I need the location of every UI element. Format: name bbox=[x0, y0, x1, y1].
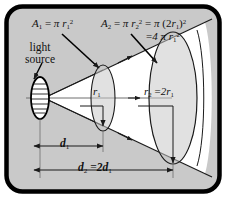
diagram-svg bbox=[0, 0, 226, 198]
area1-label: A1 = π r12 bbox=[32, 18, 73, 30]
area2-label-line2: =4 π r12 bbox=[146, 31, 180, 43]
figure-container: A1 = π r12 A2 = π r22 = π (2r1)2 =4 π r1… bbox=[0, 0, 226, 198]
radius2-label: r2 =2r1 bbox=[144, 86, 174, 98]
distance1-label: d1 bbox=[60, 137, 69, 151]
light-source-line2: source bbox=[18, 53, 62, 65]
light-source-label: light source bbox=[18, 41, 62, 65]
distance2-label: d2 =2d1 bbox=[78, 161, 112, 175]
area1-symbol: A bbox=[32, 17, 39, 29]
area2-label-line1: A2 = π r22 = π (2r1)2 bbox=[101, 18, 186, 30]
light-source-symbol bbox=[31, 77, 49, 119]
light-source-line1: light bbox=[18, 41, 62, 53]
radius1-label: r1 bbox=[93, 86, 101, 98]
